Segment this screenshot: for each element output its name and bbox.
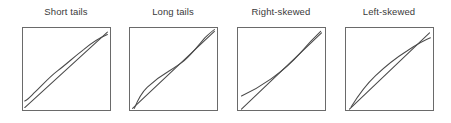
panel-short-tails: Short tails: [12, 0, 120, 123]
qq-curve: [25, 35, 108, 101]
panel-left-skewed: Left-skewed: [335, 0, 443, 123]
panel-title: Right-skewed: [227, 6, 335, 18]
plot-svg: [130, 28, 217, 110]
plot-box: [129, 27, 218, 111]
qq-curve: [241, 31, 320, 96]
plot-svg: [346, 28, 433, 110]
panel-right-skewed: Right-skewed: [227, 0, 335, 123]
plot-box: [22, 27, 111, 111]
reference-line: [25, 32, 108, 107]
panel-title: Left-skewed: [335, 6, 443, 18]
plot-box: [237, 27, 326, 111]
plot-svg: [238, 28, 325, 110]
panel-title: Short tails: [12, 6, 120, 18]
panel-long-tails: Long tails: [119, 0, 227, 123]
plot-box: [345, 27, 434, 111]
panel-title: Long tails: [119, 6, 227, 18]
reference-line: [133, 31, 215, 108]
qq-plot-figure: Short tails Long tails Right-skewed: [0, 0, 451, 123]
plot-svg: [23, 28, 110, 110]
